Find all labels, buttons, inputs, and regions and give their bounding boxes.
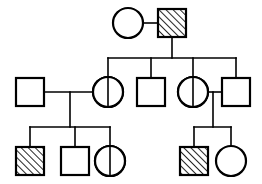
individual-III-2-male-unaffected[interactable]	[61, 147, 89, 175]
pedigree-chart	[0, 0, 262, 184]
individual-III-5-female-unaffected[interactable]	[216, 146, 246, 176]
individual-I-1-female-unaffected[interactable]	[113, 8, 143, 38]
individual-III-1-male-affected[interactable]	[16, 147, 44, 175]
individual-II-3-male-unaffected[interactable]	[137, 78, 165, 106]
individual-III-4-male-affected[interactable]	[180, 147, 208, 175]
individual-I-2-male-affected[interactable]	[158, 9, 186, 37]
individual-II-5-male-unaffected[interactable]	[222, 78, 250, 106]
individual-II-2-female-carrier[interactable]	[93, 77, 123, 107]
pedigree-canvas	[0, 0, 262, 184]
individual-III-3-female-carrier[interactable]	[95, 146, 125, 176]
generation-3-symbols	[16, 146, 246, 176]
individual-II-4-female-carrier[interactable]	[178, 77, 208, 107]
individual-II-1-male-unaffected[interactable]	[16, 78, 44, 106]
